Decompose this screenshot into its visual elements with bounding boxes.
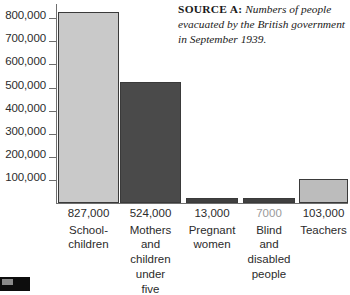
corner-artifact (0, 277, 30, 291)
y-axis-tick-mark (49, 180, 56, 181)
y-axis-tick-mark (49, 64, 56, 65)
y-axis-tick-label: 100,000 (5, 171, 46, 183)
y-axis-tick-mark (49, 41, 56, 42)
y-axis-tick-label: 600,000 (5, 55, 46, 67)
bar (186, 198, 238, 203)
y-axis-tick-label: 400,000 (5, 102, 46, 114)
y-axis-tick-mark (49, 88, 56, 89)
category-label: 103,000Teachers (291, 206, 350, 237)
y-axis-tick-mark (49, 18, 56, 19)
y-axis-tick-mark (49, 157, 56, 158)
bar-value-label: 103,000 (291, 206, 350, 221)
bar (120, 82, 181, 203)
y-axis-tick-label: 800,000 (5, 9, 46, 21)
category-name-line: people (235, 267, 303, 282)
bar (243, 198, 295, 203)
category-name-line: and (235, 237, 303, 252)
y-axis-tick-mark (49, 134, 56, 135)
category-name-line: children (112, 252, 189, 267)
bar (58, 12, 119, 203)
y-axis-tick-label: 500,000 (5, 79, 46, 91)
bar (299, 179, 348, 203)
y-axis-line (56, 4, 57, 204)
y-axis-tick-mark (49, 111, 56, 112)
category-name-line: under (112, 267, 189, 282)
y-axis-tick-label: 300,000 (5, 125, 46, 137)
x-axis-line (56, 203, 348, 204)
category-name-line: Teachers (291, 223, 350, 238)
y-axis-tick-label: 200,000 (5, 148, 46, 160)
category-name-line: disabled (235, 252, 303, 267)
evacuation-bar-chart: 800,000700,000600,000500,000400,000300,0… (0, 0, 350, 295)
y-axis-tick-label: 700,000 (5, 32, 46, 44)
category-name-line: five (112, 282, 189, 295)
